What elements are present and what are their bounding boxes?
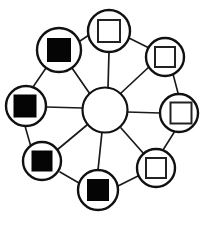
ring-bottom-left-to-left [25, 126, 31, 147]
topology-canvas [0, 0, 208, 225]
node-top-left-square-filled[interactable] [48, 39, 71, 62]
spoke-hub-bottom-left [57, 125, 87, 150]
ring-bottom-right-to-bottom [118, 176, 138, 186]
spoke-hub-top-right [121, 66, 150, 93]
ring-top-to-top-right [129, 38, 149, 48]
node-top-right-square-hollow[interactable] [155, 47, 175, 67]
node-top-left[interactable] [37, 28, 81, 72]
spoke-hub-top-left [72, 68, 90, 94]
spoke-hub-bottom-right [121, 128, 144, 154]
node-left[interactable] [6, 86, 46, 126]
central-hub-node[interactable] [83, 88, 128, 133]
node-top[interactable] [88, 10, 130, 52]
node-bottom-square-filled[interactable] [88, 180, 109, 201]
node-bottom-left-square-filled[interactable] [32, 151, 52, 171]
node-bottom-right[interactable] [137, 149, 175, 187]
node-bottom-left[interactable] [23, 142, 61, 180]
ring-top-right-to-right [173, 74, 178, 93]
ring-bottom-to-bottom-left [60, 172, 79, 183]
spoke-hub-bottom [98, 132, 102, 170]
node-bottom[interactable] [78, 170, 118, 210]
ring-right-to-bottom-right [163, 131, 175, 150]
node-left-square-filled[interactable] [14, 95, 36, 117]
node-right-square-hollow[interactable] [171, 103, 192, 124]
spoke-hub-top [108, 52, 109, 88]
node-bottom-right-square-hollow[interactable] [146, 158, 166, 178]
network-topology-diagram [0, 0, 208, 225]
hub-circle[interactable] [83, 88, 128, 133]
node-right[interactable] [160, 94, 198, 132]
node-top-right[interactable] [146, 38, 184, 76]
node-top-square-hollow[interactable] [98, 20, 120, 42]
spoke-hub-left [46, 107, 83, 108]
ring-left-to-top-left [33, 68, 46, 87]
spoke-hub-right [127, 112, 160, 113]
